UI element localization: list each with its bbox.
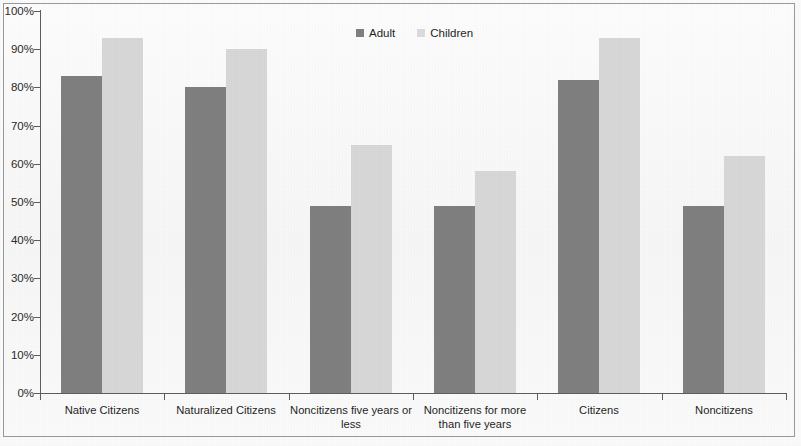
y-axis-tick-label: 70% bbox=[0, 121, 34, 133]
x-axis-label-3: Noncitizens for more than five years bbox=[413, 404, 537, 431]
y-axis-tick-label: 80% bbox=[0, 82, 34, 94]
y-axis-tick-label: 40% bbox=[0, 235, 34, 247]
legend-label: Adult bbox=[369, 27, 395, 39]
y-axis-tick bbox=[34, 278, 40, 279]
bar-children-5 bbox=[724, 156, 765, 393]
legend-entry-adult: Adult bbox=[356, 27, 395, 39]
y-axis-tick bbox=[34, 49, 40, 50]
y-axis-tick-label: 20% bbox=[0, 312, 34, 324]
x-axis-label-5: Noncitizens bbox=[662, 404, 786, 418]
bar-adult-1 bbox=[185, 87, 226, 393]
y-axis-tick-label: 0% bbox=[0, 388, 34, 400]
chart-legend: AdultChildren bbox=[356, 27, 473, 39]
y-axis-tick-label: 50% bbox=[0, 197, 34, 209]
y-axis-tick-label: 90% bbox=[0, 44, 34, 56]
x-axis-label-2: Noncitizens five years or less bbox=[289, 404, 413, 431]
bar-adult-3 bbox=[434, 206, 475, 393]
y-axis-line bbox=[40, 10, 41, 394]
y-axis-tick bbox=[34, 240, 40, 241]
x-axis-label-0: Native Citizens bbox=[40, 404, 164, 418]
x-axis-label-1: Naturalized Citizens bbox=[164, 404, 288, 418]
x-axis-tick bbox=[164, 394, 165, 400]
y-axis-tick bbox=[34, 164, 40, 165]
y-axis-tick bbox=[34, 355, 40, 356]
chart-container: AdultChildren 100%90%80%70%60%50%40%30%2… bbox=[0, 0, 801, 446]
bar-adult-5 bbox=[683, 206, 724, 393]
bar-adult-0 bbox=[61, 76, 102, 393]
y-axis-tick-label: 100% bbox=[0, 6, 34, 18]
bar-children-1 bbox=[226, 49, 267, 393]
y-axis-tick-label: 60% bbox=[0, 159, 34, 171]
y-axis-tick bbox=[34, 317, 40, 318]
x-axis-tick bbox=[786, 394, 787, 400]
bar-adult-4 bbox=[558, 80, 599, 393]
bar-children-0 bbox=[102, 38, 143, 393]
y-axis-tick bbox=[34, 87, 40, 88]
y-axis-tick-label: 10% bbox=[0, 350, 34, 362]
y-axis-tick-label: 30% bbox=[0, 273, 34, 285]
x-axis-tick bbox=[662, 394, 663, 400]
legend-label: Children bbox=[430, 27, 473, 39]
legend-swatch-children-icon bbox=[417, 29, 425, 37]
x-axis-tick bbox=[289, 394, 290, 400]
legend-swatch-adult-icon bbox=[356, 29, 364, 37]
x-axis-tick bbox=[413, 394, 414, 400]
bar-children-3 bbox=[475, 171, 516, 393]
x-axis-label-4: Citizens bbox=[537, 404, 661, 418]
y-axis-tick bbox=[34, 202, 40, 203]
y-axis-tick bbox=[34, 126, 40, 127]
x-axis-tick bbox=[40, 394, 41, 400]
bar-children-4 bbox=[599, 38, 640, 393]
bar-adult-2 bbox=[310, 206, 351, 393]
legend-entry-children: Children bbox=[417, 27, 473, 39]
bar-children-2 bbox=[351, 145, 392, 393]
y-axis-tick bbox=[34, 11, 40, 12]
x-axis-tick bbox=[537, 394, 538, 400]
